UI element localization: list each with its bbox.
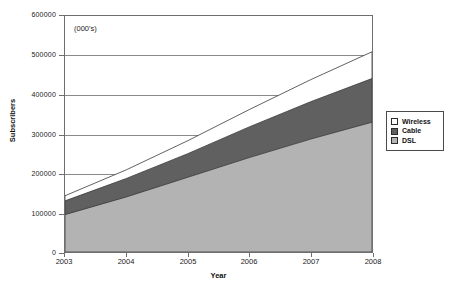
units-annotation: (000's) (74, 24, 97, 33)
x-tick-label: 2003 (44, 257, 84, 266)
x-tick-label: 2006 (229, 257, 269, 266)
y-tick-label: 500000 (31, 51, 56, 58)
y-axis-title: Subscribers (8, 81, 17, 161)
y-tick-label: 100000 (31, 210, 56, 217)
x-tick-label: 2004 (106, 257, 146, 266)
legend-label: Wireless (402, 118, 431, 126)
x-tick-label: 2007 (291, 257, 331, 266)
legend-label: DSL (402, 137, 416, 145)
legend-item-cable[interactable]: Cable (391, 127, 439, 135)
y-tick-label: 400000 (31, 91, 56, 98)
legend-swatch-dsl (391, 137, 398, 144)
legend-label: Cable (402, 127, 421, 135)
legend-swatch-wireless (391, 118, 398, 125)
chart-legend: Wireless Cable DSL (386, 111, 444, 151)
y-tick-label: 600000 (31, 11, 56, 18)
stacked-area-series (65, 16, 372, 252)
y-tick-label: 300000 (31, 131, 56, 138)
y-tick-label: 0 (52, 249, 56, 256)
legend-swatch-cable (391, 128, 398, 135)
x-tick-label: 2008 (353, 257, 393, 266)
plot-area (64, 15, 373, 253)
x-axis-title: Year (0, 271, 437, 280)
legend-item-wireless[interactable]: Wireless (391, 118, 439, 126)
legend-item-dsl[interactable]: DSL (391, 137, 439, 145)
x-tick-label: 2005 (168, 257, 208, 266)
y-tick-label: 200000 (31, 170, 56, 177)
chart-container: 600000 500000 400000 300000 200000 10000… (0, 0, 451, 294)
